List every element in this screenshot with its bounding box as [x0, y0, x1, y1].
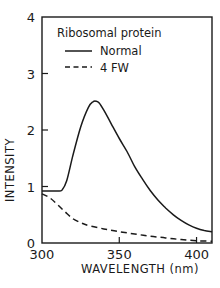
x-axis-label: WAVELENGTH (nm) [81, 262, 199, 276]
y-tick-label: 4 [27, 10, 35, 25]
x-tick-label: 400 [184, 247, 209, 262]
y-tick-label: 2 [27, 123, 35, 138]
y-tick-label: 1 [27, 180, 35, 195]
legend-entry-normal: Normal [100, 44, 142, 58]
x-tick-label: 300 [30, 247, 55, 262]
legend: Ribosomal protein Normal 4 FW [57, 26, 162, 75]
y-axis-ticks: 01234 [27, 10, 48, 251]
legend-entry-4fw: 4 FW [100, 61, 129, 75]
series-line-normal [42, 101, 212, 232]
y-axis-label: INTENSITY [3, 137, 17, 202]
series-line-4-fw [42, 194, 212, 242]
x-tick-label: 350 [107, 247, 132, 262]
y-tick-label: 3 [27, 67, 35, 82]
x-axis-ticks: 300350400 [30, 237, 209, 262]
intensity-wavelength-chart: 01234 300350400 Ribosomal protein Normal… [0, 0, 220, 288]
legend-title: Ribosomal protein [57, 26, 162, 40]
data-series [42, 101, 212, 241]
